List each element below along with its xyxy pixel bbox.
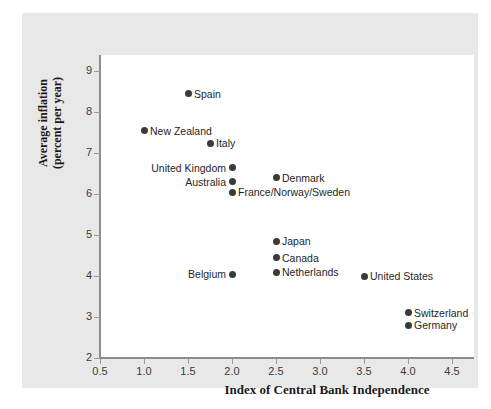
y-tick-mark: [94, 276, 100, 277]
y-tick-label-text: 6: [74, 187, 92, 199]
y-tick-mark: [94, 194, 100, 195]
y-axis-title: Average inflation (percent per year): [36, 33, 64, 213]
x-tick-mark: [364, 359, 365, 364]
x-tick-mark: [276, 359, 277, 364]
x-tick-mark: [232, 359, 233, 364]
x-tick-label: 4.5: [436, 365, 468, 377]
y-tick-mark: [94, 112, 100, 113]
data-point[interactable]: [273, 269, 280, 276]
data-point[interactable]: [185, 90, 192, 97]
data-point-label: United Kingdom: [151, 163, 226, 173]
y-tick-mark: [94, 153, 100, 154]
y-tick-label-text: 8: [74, 105, 92, 117]
x-tick-label: 1.0: [128, 365, 160, 377]
data-point-label: Switzerland: [414, 308, 468, 318]
y-tick-mark: [94, 317, 100, 318]
figure-container: 98765432 0.51.01.52.02.53.03.54.04.5 Spa…: [0, 0, 491, 409]
data-point-label: Belgium: [188, 269, 226, 279]
data-point[interactable]: [229, 189, 236, 196]
y-tick-label-text: 9: [74, 64, 92, 76]
data-point[interactable]: [229, 271, 236, 278]
x-tick-label: 2.5: [260, 365, 292, 377]
y-tick-mark: [94, 235, 100, 236]
data-point[interactable]: [141, 127, 148, 134]
x-tick-mark: [144, 359, 145, 364]
x-tick-label: 1.5: [172, 365, 204, 377]
data-point-label: United States: [370, 271, 433, 281]
y-tick-mark: [94, 71, 100, 72]
data-point[interactable]: [273, 174, 280, 181]
data-point-label: Australia: [185, 177, 226, 187]
x-tick-label: 3.5: [348, 365, 380, 377]
x-tick-label: 3.0: [304, 365, 336, 377]
data-point-label: New Zealand: [150, 126, 212, 136]
data-point-label: Japan: [282, 236, 311, 246]
figure-background-panel: 98765432 0.51.01.52.02.53.03.54.04.5 Spa…: [22, 13, 478, 388]
data-point[interactable]: [405, 309, 412, 316]
data-point[interactable]: [273, 254, 280, 261]
data-point[interactable]: [229, 164, 236, 171]
data-point[interactable]: [361, 273, 368, 280]
x-tick-mark: [408, 359, 409, 364]
data-point-label: Denmark: [282, 173, 325, 183]
x-tick-mark: [100, 359, 101, 364]
data-point[interactable]: [229, 178, 236, 185]
x-axis-line: [99, 357, 474, 359]
x-tick-mark: [452, 359, 453, 364]
data-point-label: Spain: [194, 89, 221, 99]
data-point-label: Germany: [414, 320, 457, 330]
y-axis-line: [99, 55, 101, 359]
x-tick-mark: [188, 359, 189, 364]
data-point-label: Netherlands: [282, 267, 339, 277]
data-point[interactable]: [273, 238, 280, 245]
x-tick-label: 2.0: [216, 365, 248, 377]
x-tick-label: 0.5: [84, 365, 116, 377]
y-tick-label-text: 4: [74, 269, 92, 281]
data-point[interactable]: [207, 140, 214, 147]
data-point[interactable]: [405, 322, 412, 329]
x-tick-mark: [320, 359, 321, 364]
data-point-label: Italy: [216, 138, 235, 148]
y-tick-label-text: 3: [74, 310, 92, 322]
data-point-label: Canada: [282, 253, 319, 263]
y-tick-label-text: 7: [74, 146, 92, 158]
data-point-label: France/Norway/Sweden: [238, 187, 350, 197]
y-tick-label-text: 2: [74, 351, 92, 363]
y-tick-label-text: 5: [74, 228, 92, 240]
x-tick-label: 4.0: [392, 365, 424, 377]
x-axis-title: Index of Central Bank Independence: [162, 382, 491, 398]
